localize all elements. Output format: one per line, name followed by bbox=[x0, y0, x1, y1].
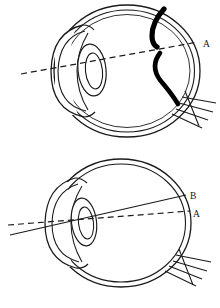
detached-retina-lower bbox=[155, 53, 178, 104]
axis-a-dashed-line bbox=[21, 42, 198, 74]
label-axis-a-bottom: A bbox=[193, 209, 200, 219]
label-axis-a-top: A bbox=[203, 39, 210, 49]
label-axis-b-bottom: B bbox=[190, 191, 196, 201]
optic-nerve-line-2 bbox=[179, 103, 213, 112]
optic-nerve-sheath bbox=[179, 249, 193, 285]
eye-diagram-top: A bbox=[0, 0, 220, 152]
axis-b-solid-line bbox=[10, 195, 186, 235]
figure-root: A bbox=[0, 0, 220, 308]
axis-a-dashed-line bbox=[8, 211, 190, 225]
eye-diagram-top-svg: A bbox=[0, 0, 220, 152]
optic-nerve-line-4 bbox=[165, 271, 196, 286]
limbus-inferior bbox=[76, 264, 88, 268]
limbus-inferior bbox=[84, 112, 95, 117]
eye-diagram-bottom: B A bbox=[0, 152, 220, 308]
eye-diagram-bottom-svg: B A bbox=[0, 152, 220, 308]
